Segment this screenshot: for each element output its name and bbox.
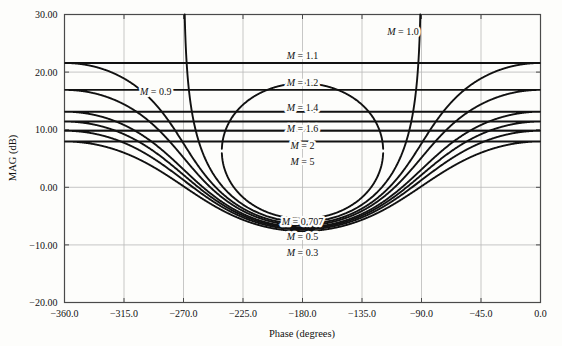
m-locus-label: M = 1.1	[286, 50, 318, 61]
x-tick-label: −360.0	[50, 308, 78, 319]
y-axis-title: MAG (dB)	[7, 134, 19, 181]
y-tick-label: 10.00	[35, 124, 58, 135]
m-locus-label: M = 0.5	[286, 231, 318, 242]
y-tick-label: 0.00	[40, 182, 58, 193]
y-tick-label: 20.00	[35, 67, 58, 78]
m-locus-label: M = 0.9	[139, 86, 171, 97]
x-axis-title: Phase (degrees)	[269, 328, 336, 340]
x-tick-label: −90.0	[410, 308, 433, 319]
x-tick-label: −225.0	[229, 308, 257, 319]
x-tick-label: −45.0	[469, 308, 492, 319]
x-tick-label: 0.0	[534, 308, 547, 319]
x-tick-label: −135.0	[348, 308, 376, 319]
y-tick-label: −10.00	[29, 240, 57, 251]
m-locus-label: M = 2	[290, 140, 315, 151]
y-tick-label: −20.00	[29, 297, 57, 308]
m-locus-label: M = 5	[290, 156, 315, 167]
chart-canvas: M = 0.3M = 0.3M = 0.5M = 0.5M = 0.707M =…	[0, 0, 562, 346]
x-tick-label: −270.0	[169, 308, 197, 319]
x-tick-label: −315.0	[110, 308, 138, 319]
y-tick-label: 30.00	[35, 9, 58, 20]
x-axis-tick-labels: −360.0−315.0−270.0−225.0−180.0−135.0−90.…	[50, 308, 546, 319]
m-locus-label: M = 0.707	[281, 216, 323, 227]
m-locus-label: M = 1.2	[286, 77, 318, 88]
m-locus-label: M = 1.6	[286, 123, 318, 134]
m-locus-label: M = 0.3	[286, 247, 318, 258]
nichols-chart-figure: M = 0.3M = 0.3M = 0.5M = 0.5M = 0.707M =…	[0, 0, 562, 346]
chart-background	[0, 0, 562, 346]
m-locus-label: M = 1.0	[386, 26, 418, 37]
x-tick-label: −180.0	[288, 308, 316, 319]
m-locus-label: M = 1.4	[286, 102, 318, 113]
